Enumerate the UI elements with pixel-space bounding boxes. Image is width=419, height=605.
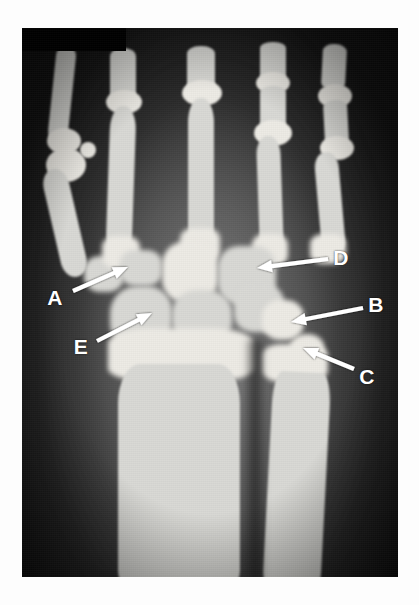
xray-image	[22, 28, 398, 577]
collimation-patch	[22, 28, 126, 51]
bone-ulna-shaft	[262, 371, 331, 577]
bone-second-metacarpal	[105, 106, 136, 257]
bone-radius-shaft	[118, 364, 240, 577]
radiograph-figure: ABCDE	[0, 0, 419, 605]
bone-trapezoid	[120, 250, 162, 286]
bone-fifth-metacarpal-base	[310, 234, 346, 264]
distal-radioulnar-joint-space	[244, 340, 266, 577]
bone-pisiform	[262, 300, 304, 340]
